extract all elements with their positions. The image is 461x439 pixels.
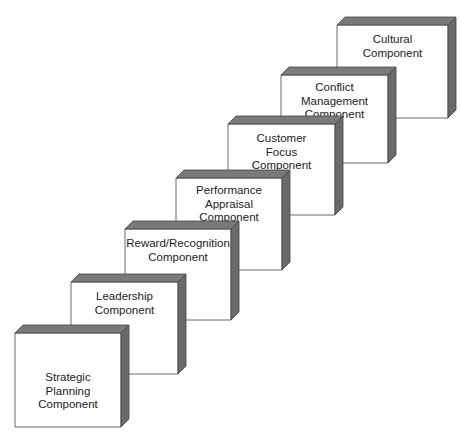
box-label: Performance Appraisal Component bbox=[176, 184, 282, 225]
box-strategic-planning: Strategic Planning Component bbox=[15, 325, 129, 427]
box-label: Customer Focus Component bbox=[228, 132, 335, 173]
box-label: Strategic Planning Component bbox=[15, 371, 121, 412]
box-label: Reward/Recognition Component bbox=[125, 237, 231, 264]
box-label: Leadership Component bbox=[71, 290, 178, 317]
box-label: Cultural Component bbox=[337, 33, 448, 60]
